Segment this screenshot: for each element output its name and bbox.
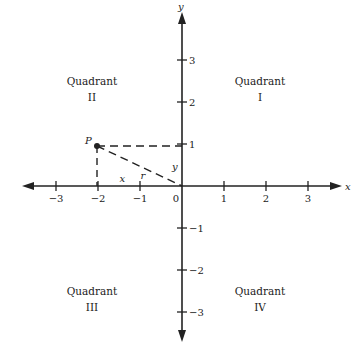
y-tick-label: 2	[189, 97, 195, 108]
x-tick-label: 2	[263, 193, 269, 204]
quadrant-numeral: IV	[254, 301, 266, 313]
y-axis-arrow-down-icon	[178, 330, 186, 342]
x-tick-label: −2	[91, 193, 106, 204]
segment-label-y: y	[171, 161, 178, 172]
x-axis-label: x	[345, 181, 351, 192]
segment-label-x: x	[120, 173, 126, 184]
point-p	[94, 143, 100, 149]
quadrant-numeral: I	[258, 91, 262, 103]
y-axis-arrow-up-icon	[178, 12, 186, 24]
dashed-line-radius	[97, 146, 182, 186]
point-label: P	[84, 135, 92, 146]
y-tick-label: −2	[189, 265, 204, 276]
quadrant-numeral: III	[86, 301, 98, 313]
y-tick-label: 1	[189, 139, 195, 150]
x-tick-label: 1	[221, 193, 227, 204]
origin-label: 0	[173, 193, 179, 204]
segment-label-r: r	[141, 170, 147, 181]
y-tick-label: −3	[189, 307, 204, 318]
x-axis-arrow-left-icon	[22, 182, 34, 190]
x-tick-label: 3	[305, 193, 311, 204]
y-tick-label: 3	[189, 55, 195, 66]
quadrant-label: Quadrant	[235, 75, 286, 87]
quadrant-label: Quadrant	[235, 285, 286, 297]
x-tick-label: −1	[133, 193, 148, 204]
coordinate-plane: xy−3−2−1123321−1−2−30QuadrantIQuadrantII…	[0, 0, 364, 356]
quadrant-label: Quadrant	[67, 75, 118, 87]
y-axis-label: y	[177, 1, 184, 12]
quadrant-label: Quadrant	[67, 285, 118, 297]
x-axis-arrow-right-icon	[330, 182, 342, 190]
quadrant-numeral: II	[88, 91, 96, 103]
x-tick-label: −3	[49, 193, 64, 204]
y-tick-label: −1	[189, 223, 204, 234]
